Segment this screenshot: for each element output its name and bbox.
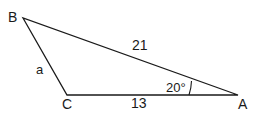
triangle-abc [23,18,238,95]
triangle-diagram: B C A a 21 13 20° [0,0,259,121]
vertex-a-label: A [238,96,248,112]
angle-a-label: 20° [166,80,186,95]
vertex-b-label: B [8,9,17,25]
side-ca-label: 13 [131,95,147,111]
side-ab-label: 21 [132,37,148,53]
side-a-label: a [36,62,44,77]
angle-a-arc [189,81,192,95]
vertex-c-label: C [62,96,72,112]
